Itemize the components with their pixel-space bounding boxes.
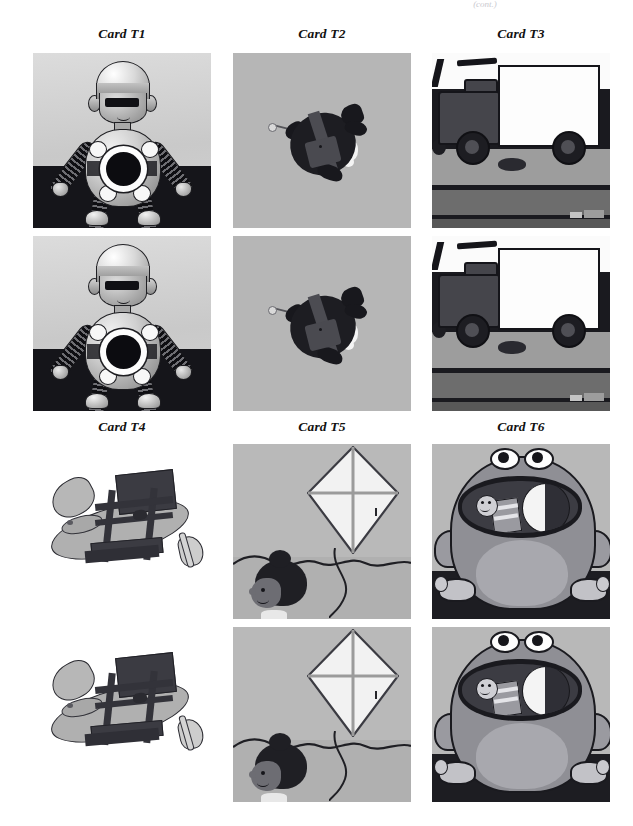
card-label-t4: Card T4 bbox=[33, 419, 211, 435]
card-image-t2-a bbox=[233, 53, 411, 228]
card-image-t5-a bbox=[233, 444, 411, 619]
card-image-t3-b bbox=[432, 236, 610, 411]
card-label-t2: Card T2 bbox=[233, 26, 411, 42]
card-image-t2-b bbox=[233, 236, 411, 411]
figure-page: (cont.) Card T1 Card T2 Card T3 bbox=[0, 0, 633, 826]
card-label-t3: Card T3 bbox=[432, 26, 610, 42]
card-image-t4-a bbox=[33, 444, 211, 619]
card-label-t1: Card T1 bbox=[33, 26, 211, 42]
card-image-t1-b bbox=[33, 236, 211, 411]
cutoff-header-text: (cont.) bbox=[420, 0, 550, 9]
card-image-t4-b bbox=[33, 627, 211, 802]
card-image-t6-b bbox=[432, 627, 610, 802]
card-label-t5: Card T5 bbox=[233, 419, 411, 435]
card-image-t5-b bbox=[233, 627, 411, 802]
card-image-t1-a bbox=[33, 53, 211, 228]
card-label-t6: Card T6 bbox=[432, 419, 610, 435]
card-image-t3-a bbox=[432, 53, 610, 228]
card-image-t6-a bbox=[432, 444, 610, 619]
